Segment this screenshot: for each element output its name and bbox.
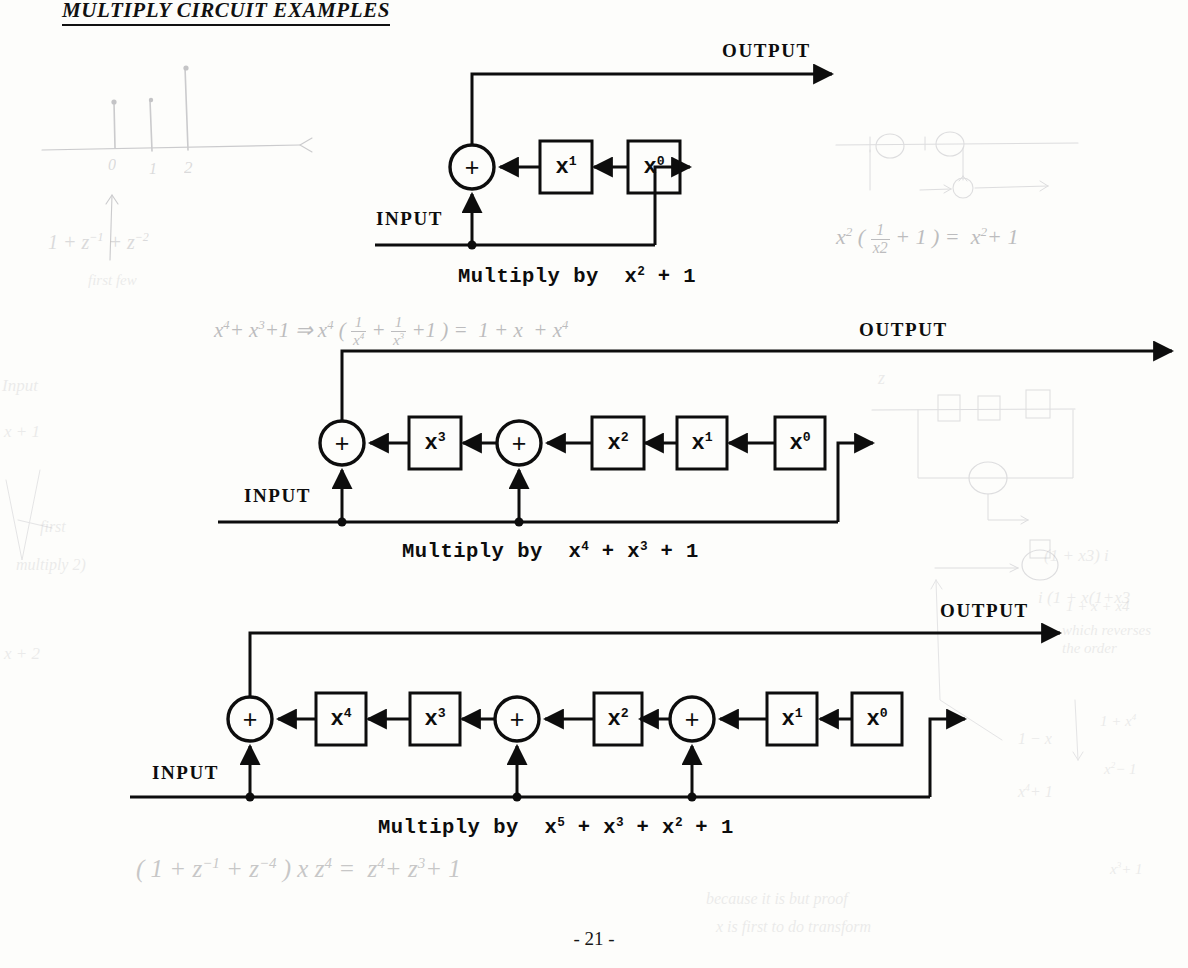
circuit-1-caption: Multiply by x2 + 1: [458, 264, 696, 288]
circuit-2-caption: Multiply by x4 + x3 + 1: [402, 539, 699, 563]
circuit-2-input-label: INPUT: [244, 485, 311, 507]
scanned-page: MULTIPLY CIRCUIT EXAMPLES: [0, 0, 1188, 968]
circuit-3-wires: [130, 633, 1060, 802]
circuit-1-adder-1-symbol: +: [465, 155, 480, 180]
circuit-3-adder-2-symbol: +: [510, 707, 525, 732]
circuit-2-adder-1-symbol: +: [335, 431, 350, 456]
circuit-1-delay-x1: x1: [555, 154, 576, 179]
circuit-2-delay-x1: x1: [691, 430, 712, 455]
circuit-2-delay-x3: x3: [424, 430, 445, 455]
circuit-3-delay-x0: x0: [866, 706, 887, 731]
circuit-3-delay-x4: x4: [330, 706, 351, 731]
circuit-2-delay-x0: x0: [789, 430, 810, 455]
circuit-1-wires: [375, 74, 832, 250]
circuit-3-delay-x3: x3: [424, 706, 445, 731]
circuit-1-input-label: INPUT: [376, 208, 443, 230]
circuit-3-output-label: OUTPUT: [940, 600, 1029, 622]
circuit-1-delay-x0: x0: [643, 154, 664, 179]
circuit-3-caption: Multiply by x5 + x3 + x2 + 1: [378, 815, 734, 839]
circuit-3-adder-1-symbol: +: [243, 707, 258, 732]
circuit-3-delay-x1: x1: [781, 706, 802, 731]
circuit-2-adder-2-symbol: +: [512, 431, 527, 456]
circuit-2-delay-x2: x2: [607, 430, 628, 455]
circuit-1-output-label: OUTPUT: [722, 40, 811, 62]
circuit-3-input-label: INPUT: [152, 762, 219, 784]
page-number: - 21 -: [0, 928, 1188, 950]
circuit-2-output-label: OUTPUT: [859, 319, 948, 341]
circuit-3-delay-x2: x2: [607, 706, 628, 731]
circuit-3-adder-3-symbol: +: [685, 707, 700, 732]
